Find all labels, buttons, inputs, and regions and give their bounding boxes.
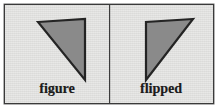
panel-figure: figure [5, 5, 109, 103]
label-flipped: flipped [109, 80, 213, 97]
panel-flipped: flipped [109, 5, 213, 103]
triangle-flipped [146, 19, 193, 80]
label-figure: figure [5, 80, 109, 97]
triangle-figure [38, 19, 85, 80]
figure-card: figure flipped [4, 4, 214, 104]
panel-group: figure flipped [5, 5, 213, 103]
panel-divider [109, 5, 110, 103]
